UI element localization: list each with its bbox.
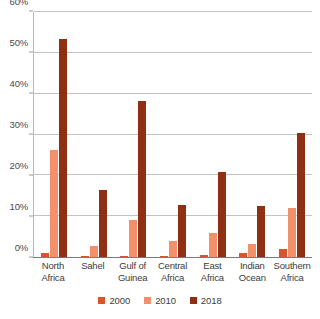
x-axis-label: Gulf ofGuinea <box>113 260 153 290</box>
bar-2018[interactable] <box>138 101 146 257</box>
x-axis-label: CentralAfrica <box>153 260 193 290</box>
bar-2000[interactable] <box>120 256 128 257</box>
y-axis-tick-label: 30% <box>10 119 28 130</box>
bar-2010[interactable] <box>209 233 217 258</box>
x-axis-label: NorthAfrica <box>33 260 73 290</box>
x-axis-label: SouthernAfrica <box>272 260 312 290</box>
bar-group <box>34 12 74 257</box>
bar-2000[interactable] <box>200 255 208 257</box>
bar-2010[interactable] <box>90 246 98 257</box>
y-axis-tick-label: 60% <box>10 0 28 7</box>
legend-swatch-icon <box>144 297 151 304</box>
x-axis-label: Sahel <box>73 260 113 290</box>
y-axis-tick-label: 10% <box>10 201 28 212</box>
bar-2000[interactable] <box>239 253 247 257</box>
y-axis-tick-label: 40% <box>10 78 28 89</box>
x-axis-label-line: Guinea <box>113 272 153 284</box>
x-axis-label-line: Central <box>153 260 193 272</box>
legend-item-2018[interactable]: 2018 <box>190 295 222 306</box>
bar-group <box>113 12 153 257</box>
legend-label: 2010 <box>155 295 176 306</box>
bar-group <box>153 12 193 257</box>
x-axis-label-line: North <box>33 260 73 272</box>
bar-group <box>193 12 233 257</box>
x-axis-labels: NorthAfricaSahelGulf ofGuineaCentralAfri… <box>33 260 312 290</box>
bar-2000[interactable] <box>41 253 49 257</box>
x-axis-label-line: Indian <box>232 260 272 272</box>
x-axis-label-line: Sahel <box>73 260 113 272</box>
bar-2010[interactable] <box>169 241 177 257</box>
bar-chart: 0%10%20%30%40%50%60% NorthAfricaSahelGul… <box>0 0 320 319</box>
x-axis-label: IndianOcean <box>232 260 272 290</box>
y-axis-tick-label: 0% <box>15 242 28 253</box>
bar-group <box>272 12 312 257</box>
x-axis-label-line: Ocean <box>232 272 272 284</box>
legend-item-2000[interactable]: 2000 <box>98 295 130 306</box>
bar-2010[interactable] <box>50 150 58 257</box>
x-axis-label-line: Southern <box>272 260 312 272</box>
x-axis-label-line: Africa <box>33 272 73 284</box>
bar-2000[interactable] <box>279 249 287 257</box>
bar-2018[interactable] <box>59 39 67 257</box>
legend-label: 2000 <box>109 295 130 306</box>
x-axis-label: EastAfrica <box>192 260 232 290</box>
legend-label: 2018 <box>201 295 222 306</box>
x-axis-label-line: Africa <box>153 272 193 284</box>
bar-group <box>74 12 114 257</box>
bar-2018[interactable] <box>99 190 107 257</box>
y-axis-tick-label: 50% <box>10 37 28 48</box>
bar-2018[interactable] <box>218 172 226 257</box>
x-axis-label-line: Africa <box>272 272 312 284</box>
bar-2018[interactable] <box>257 206 265 257</box>
bar-groups <box>34 12 312 257</box>
x-axis-label-line: Africa <box>192 272 232 284</box>
y-axis: 0%10%20%30%40%50%60% <box>0 12 33 258</box>
y-axis-tick-label: 20% <box>10 160 28 171</box>
bar-2018[interactable] <box>178 205 186 257</box>
bar-2000[interactable] <box>81 256 89 257</box>
plot-area <box>33 12 312 258</box>
legend-swatch-icon <box>98 297 105 304</box>
bar-2018[interactable] <box>297 133 305 257</box>
x-axis-label-line: Gulf of <box>113 260 153 272</box>
x-axis-label-line: East <box>192 260 232 272</box>
bar-2010[interactable] <box>129 220 137 257</box>
bar-group <box>233 12 273 257</box>
legend-swatch-icon <box>190 297 197 304</box>
bar-2010[interactable] <box>288 208 296 257</box>
chart-legend: 200020102018 <box>0 295 320 306</box>
bar-2000[interactable] <box>160 256 168 257</box>
legend-item-2010[interactable]: 2010 <box>144 295 176 306</box>
bar-2010[interactable] <box>248 244 256 257</box>
